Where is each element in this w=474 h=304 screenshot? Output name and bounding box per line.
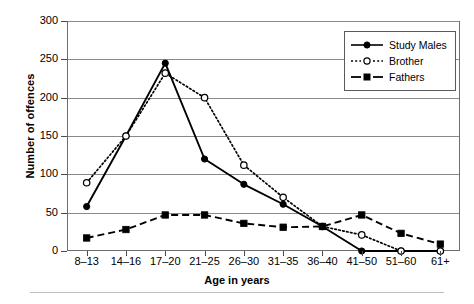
x-tick-mark [165,251,166,256]
legend-item-fathers: Fathers [350,69,449,85]
x-tick-mark [322,251,323,256]
x-tick-mark [440,251,441,256]
x-tick-mark [126,251,127,256]
legend-sample-dashed-square [350,70,384,84]
y-tick-label: 50 [24,207,58,218]
x-tick-label: 61+ [412,256,468,267]
x-tick-mark [87,251,88,256]
y-tick-label: 300 [24,15,58,26]
gridline [68,213,459,214]
y-tick-mark [61,251,67,252]
x-tick-mark [401,251,402,256]
gridline [68,174,459,175]
y-tick-label: 100 [24,168,58,179]
x-tick-mark [362,251,363,256]
footer-rule [30,292,444,293]
legend-item-brother: Brother [350,53,449,69]
gridline [68,136,459,137]
legend-label-brother: Brother [389,55,423,67]
y-tick-label: 150 [24,130,58,141]
legend-label-study-males: Study Males [389,39,447,51]
gridline [68,98,459,99]
y-tick-label: 250 [24,53,58,64]
x-tick-mark [244,251,245,256]
chart-figure: Number of offences 050100150200250300 8–… [0,0,474,304]
y-tick-label: 200 [24,92,58,103]
legend-sample-dotted-open-circle [350,54,384,68]
legend-item-study-males: Study Males [350,37,449,53]
legend-sample-solid-circle [350,38,384,52]
chart-legend: Study Males Brother Fathers [344,31,456,91]
legend-label-fathers: Fathers [389,71,425,83]
x-axis-title: Age in years [0,274,474,286]
x-tick-mark [283,251,284,256]
gridline [68,21,459,22]
x-tick-mark [205,251,206,256]
y-tick-label: 0 [24,245,58,256]
